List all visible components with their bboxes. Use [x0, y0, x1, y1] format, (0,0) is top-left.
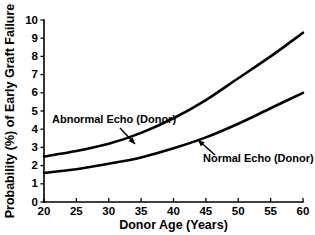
series-label-abnormal-echo: Abnormal Echo (Donor)	[52, 113, 176, 125]
x-tick-label: 55	[264, 205, 277, 217]
plot-area: 012345678910 202530354045505560 Abnormal…	[0, 0, 315, 235]
x-axis-title: Donor Age (Years)	[119, 218, 228, 232]
y-tick-label: 8	[32, 50, 39, 62]
y-tick-label: 7	[32, 68, 38, 80]
y-tick-label: 1	[32, 177, 39, 189]
y-tick-label: 10	[25, 14, 38, 26]
data-curve-abnormal-echo	[44, 33, 303, 157]
x-tick-label: 30	[102, 205, 115, 217]
series-label-normal-echo: Normal Echo (Donor)	[203, 152, 314, 164]
y-tick-label: 2	[32, 159, 38, 171]
x-tick-label: 50	[232, 205, 245, 217]
y-axis-title: Probability (%) of Early Graft Failure	[3, 4, 17, 219]
y-tick-label: 6	[32, 86, 38, 98]
y-tick-label: 5	[32, 105, 39, 117]
y-tick-label: 9	[32, 32, 38, 44]
x-tick-label: 60	[297, 205, 310, 217]
chart-figure: 012345678910 202530354045505560 Abnormal…	[0, 0, 315, 235]
y-axis-ticks: 012345678910	[25, 14, 44, 208]
x-tick-label: 40	[167, 205, 180, 217]
series-annotations: Abnormal Echo (Donor)Normal Echo (Donor)	[52, 113, 314, 164]
x-tick-label: 25	[70, 205, 83, 217]
y-tick-label: 3	[32, 141, 38, 153]
x-tick-label: 20	[38, 205, 51, 217]
x-axis-ticks: 202530354045505560	[38, 198, 310, 217]
y-tick-label: 4	[32, 123, 39, 135]
x-tick-label: 35	[135, 205, 148, 217]
x-tick-label: 45	[199, 205, 212, 217]
